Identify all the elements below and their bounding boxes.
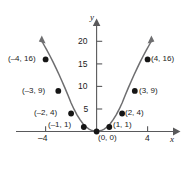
point-label-neg2-4: (–2, 4) <box>34 109 57 117</box>
data-point <box>43 57 49 63</box>
y-axis-label: y <box>90 13 94 22</box>
data-point <box>132 88 138 94</box>
point-label-1-1: (1, 1) <box>113 121 132 129</box>
y-tick-label-15: 15 <box>78 60 87 69</box>
point-label-3-9: (3, 9) <box>139 87 158 95</box>
x-axis-label: x <box>170 135 174 144</box>
point-label-0-0: (0, 0) <box>98 134 117 142</box>
y-axis-ticks <box>97 41 103 109</box>
x-axis-arrowhead <box>173 128 181 136</box>
data-point <box>81 124 87 130</box>
x-tick-label-4: 4 <box>145 134 150 143</box>
data-point <box>145 57 151 63</box>
data-point <box>55 88 61 94</box>
point-label-neg4-16: (–4, 16) <box>8 55 36 63</box>
y-tick-label-20: 20 <box>78 37 87 46</box>
data-point <box>106 124 112 130</box>
point-label-neg3-9: (–3, 9) <box>22 87 45 95</box>
y-tick-label-5: 5 <box>84 105 89 114</box>
parabola-figure: 20 15 10 5 –4 4 y x (–4, 16) (–3, 9) (–2… <box>0 0 186 179</box>
point-label-2-4: (2, 4) <box>125 109 144 117</box>
data-point <box>68 111 74 117</box>
y-tick-label-10: 10 <box>78 82 87 91</box>
point-label-neg1-1: (–1, 1) <box>48 121 71 129</box>
point-label-4-16: (4, 16) <box>151 55 174 63</box>
curve-arrowhead-left <box>39 36 46 44</box>
x-tick-label-neg4: –4 <box>38 134 47 143</box>
curve-arrowhead-right <box>148 36 155 44</box>
